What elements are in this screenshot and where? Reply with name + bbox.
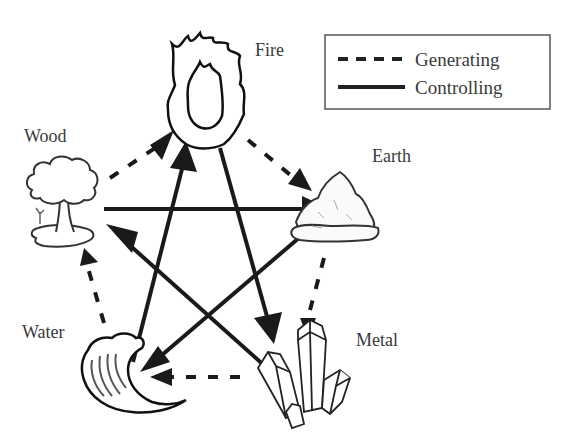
flame-icon xyxy=(168,33,245,149)
element-label-water: Water xyxy=(22,322,65,342)
element-label-wood: Wood xyxy=(24,126,67,146)
element-label-earth: Earth xyxy=(372,146,411,166)
arrowhead-icon xyxy=(80,248,98,266)
arrow-earth-generates-metal xyxy=(310,258,324,310)
tree-icon xyxy=(27,157,98,247)
arrowhead-icon xyxy=(288,168,312,191)
arrowhead-icon xyxy=(106,224,138,253)
legend-label-controlling: Controlling xyxy=(415,77,503,98)
arrowhead-icon xyxy=(150,368,172,386)
arrow-fire-generates-earth xyxy=(248,140,294,178)
legend-label-generating: Generating xyxy=(415,49,500,70)
arrow-water-controls-fire xyxy=(133,165,183,362)
element-label-fire: Fire xyxy=(255,40,284,60)
arrowhead-icon xyxy=(254,312,282,344)
five-elements-diagram: Generating Controlling xyxy=(0,0,566,442)
legend: Generating Controlling xyxy=(325,35,550,109)
arrowhead-icon xyxy=(150,130,174,160)
arrow-fire-controls-metal xyxy=(220,148,268,320)
element-label-metal: Metal xyxy=(356,330,398,350)
arrow-water-generates-wood xyxy=(88,268,104,323)
arrow-wood-generates-fire xyxy=(110,146,158,178)
